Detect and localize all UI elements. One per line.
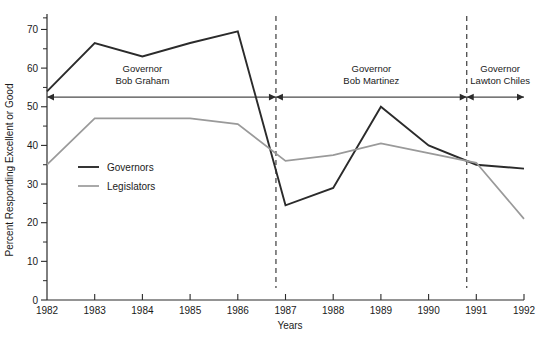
y-axis-title: Percent Responding Excellent or Good [4, 84, 15, 257]
x-tick-label: 1989 [370, 305, 393, 316]
x-tick-label: 1990 [417, 305, 440, 316]
y-tick-label: 50 [27, 101, 39, 112]
y-tick-label: 30 [27, 179, 39, 190]
term-annotation-labels: GovernorBob GrahamGovernorBob MartinezGo… [115, 63, 530, 86]
y-tick-label: 70 [27, 24, 39, 35]
term-span-arrows [47, 94, 524, 101]
term-bob-graham-label: GovernorBob Graham [115, 63, 169, 86]
x-tick-label: 1987 [274, 305, 297, 316]
chart-container: Percent Responding Excellent or Good 010… [0, 0, 548, 338]
annotation-line: Bob Graham [115, 75, 169, 86]
annotation-line: Governor [123, 63, 163, 74]
term-bob-graham [47, 94, 276, 101]
term-bob-martinez [276, 94, 467, 101]
legend-label: Legislators [107, 181, 155, 192]
x-tick-label: 1984 [131, 305, 154, 316]
x-axis-title-group: Years [277, 320, 302, 331]
x-tick-label: 1986 [227, 305, 250, 316]
y-tick-label: 40 [27, 140, 39, 151]
x-tick-label: 1988 [322, 305, 345, 316]
y-tick-labels: 010203040506070 [27, 24, 39, 306]
x-tick-label: 1983 [84, 305, 107, 316]
x-tick-label: 1985 [179, 305, 202, 316]
y-tick-label: 20 [27, 217, 39, 228]
x-tick-labels: 1982198319841985198619871988198919901991… [36, 305, 536, 316]
axis-lines [47, 14, 524, 300]
annotation-line: Bob Martinez [343, 75, 399, 86]
y-axis-title-group: Percent Responding Excellent or Good [4, 84, 15, 257]
x-tick-label: 1982 [36, 305, 59, 316]
chart-legend: GovernorsLegislators [78, 162, 155, 192]
term-dividers [276, 16, 467, 288]
annotation-line: Governor [352, 63, 392, 74]
line-chart: Percent Responding Excellent or Good 010… [0, 0, 548, 338]
term-lawton-chiles [467, 94, 524, 101]
annotation-line: Governor [480, 63, 520, 74]
x-tick-label: 1991 [465, 305, 488, 316]
y-tick-label: 10 [27, 256, 39, 267]
legend-item-legislators: Legislators [78, 181, 155, 192]
annotation-line: Lawton Chiles [470, 75, 530, 86]
term-lawton-chiles-label: GovernorLawton Chiles [470, 63, 530, 86]
y-tick-label: 0 [32, 295, 38, 306]
legend-label: Governors [107, 162, 154, 173]
y-tick-label: 60 [27, 63, 39, 74]
x-tick-label: 1992 [513, 305, 536, 316]
legend-item-governors: Governors [78, 162, 154, 173]
term-bob-martinez-label: GovernorBob Martinez [343, 63, 399, 86]
x-axis-title: Years [277, 320, 302, 331]
